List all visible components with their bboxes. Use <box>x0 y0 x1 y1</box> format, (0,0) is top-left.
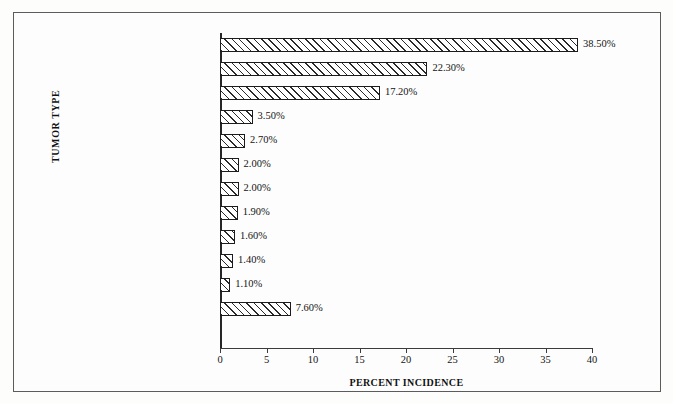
x-tick-label: 25 <box>433 354 473 365</box>
bar-row: Carcinoma of unknown origin2.00% <box>220 177 592 201</box>
scanned-page: TUMOR TYPE Lung cancer38.50%Breast cance… <box>0 0 673 403</box>
bar-row: Colorectal1.10% <box>220 273 592 297</box>
x-tick <box>267 348 268 353</box>
bar-value-label: 7.60% <box>296 301 323 315</box>
bar-value-label: 2.00% <box>244 157 271 171</box>
x-tick-label: 35 <box>526 354 566 365</box>
bar <box>220 230 235 244</box>
x-axis-title: PERCENT INCIDENCE <box>220 377 593 388</box>
bar-row: Renal1.90% <box>220 201 592 225</box>
x-tick-label: 40 <box>572 354 612 365</box>
plot-area: Lung cancer38.50%Breast cancer22.30%Lymp… <box>220 33 592 348</box>
bar-row: Lymphoma/leukemia17.20% <box>220 81 592 105</box>
x-tick <box>546 348 547 353</box>
bar <box>220 38 578 52</box>
bar <box>220 110 253 124</box>
bar-row: Melanoma2.70% <box>220 129 592 153</box>
bar <box>220 62 427 76</box>
bar-value-label: 17.20% <box>385 85 417 99</box>
x-tick <box>220 348 221 353</box>
bar <box>220 302 291 316</box>
x-tick-label: 0 <box>200 354 240 365</box>
x-tick <box>360 348 361 353</box>
bar <box>220 278 230 292</box>
bar <box>220 158 239 172</box>
bar-value-label: 1.60% <box>240 229 267 243</box>
x-tick <box>453 348 454 353</box>
bar <box>220 86 380 100</box>
bar <box>220 254 233 268</box>
bar <box>220 182 239 196</box>
x-tick-label: 5 <box>247 354 287 365</box>
x-tick-label: 30 <box>479 354 519 365</box>
x-tick-label: 20 <box>386 354 426 365</box>
bar-row: Sarcoma3.50% <box>220 105 592 129</box>
x-tick <box>592 348 593 353</box>
bar-value-label: 38.50% <box>583 37 615 51</box>
bar <box>220 134 245 148</box>
x-tick <box>499 348 500 353</box>
bar-row: Stomach2.00% <box>220 153 592 177</box>
bar-value-label: 2.70% <box>250 133 277 147</box>
bar-row: Gynecologic1.60% <box>220 225 592 249</box>
x-tick-label: 15 <box>340 354 380 365</box>
bar-row: Breast cancer22.30% <box>220 57 592 81</box>
x-tick <box>406 348 407 353</box>
bar-row: Lung cancer38.50% <box>220 33 592 57</box>
bar-value-label: 1.90% <box>243 205 270 219</box>
figure-frame: TUMOR TYPE Lung cancer38.50%Breast cance… <box>13 12 661 392</box>
bar-row: Other7.60% <box>220 297 592 321</box>
bar-value-label: 22.30% <box>432 61 464 75</box>
bar <box>220 206 238 220</box>
y-axis-title: TUMOR TYPE <box>50 90 61 163</box>
x-tick <box>313 348 314 353</box>
bar-value-label: 3.50% <box>258 109 285 123</box>
bar-value-label: 1.10% <box>235 277 262 291</box>
bar-row: Head and neck cancer1.40% <box>220 249 592 273</box>
x-tick-label: 10 <box>293 354 333 365</box>
bar-value-label: 2.00% <box>244 181 271 195</box>
bar-value-label: 1.40% <box>238 253 265 267</box>
